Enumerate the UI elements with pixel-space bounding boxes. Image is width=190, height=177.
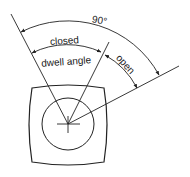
open-label: open xyxy=(114,52,137,76)
dwell-angle-label: dwell angle xyxy=(41,54,92,68)
total-angle-label: 90° xyxy=(91,13,108,26)
right-radial-line xyxy=(68,66,179,124)
left-radial-line xyxy=(11,14,68,124)
cam-dwell-angle-diagram: 90° closed dwell angle open xyxy=(0,0,190,177)
dwell-angle-arc xyxy=(32,45,101,53)
closed-label: closed xyxy=(50,34,80,47)
